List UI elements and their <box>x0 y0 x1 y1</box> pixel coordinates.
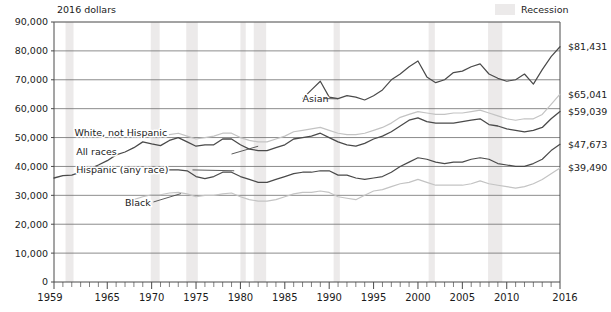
x-tick-label: 1995 <box>361 292 386 303</box>
series-label-black: Black <box>125 197 151 208</box>
end-value-label-asian: $81,431 <box>568 41 607 52</box>
income-by-race-line-chart: 010,00020,00030,00040,00050,00060,00070,… <box>0 0 611 312</box>
recession-band <box>254 22 266 282</box>
end-value-label-hispanic-any-race: $47,673 <box>568 139 607 150</box>
y-tick-label: 40,000 <box>15 161 48 172</box>
recession-legend-label: Recession <box>521 4 568 15</box>
y-tick-label: 20,000 <box>15 219 48 230</box>
recession-band <box>186 22 198 282</box>
y-tick-label: 50,000 <box>15 132 48 143</box>
y-tick-label: 10,000 <box>15 248 48 259</box>
recession-band <box>151 22 160 282</box>
x-tick-label: 1959 <box>37 292 62 303</box>
series-label-hispanic-any-race: Hispanic (any race) <box>76 164 168 175</box>
x-tick-label: 1990 <box>316 292 341 303</box>
x-tick-label: 1965 <box>95 292 120 303</box>
y-tick-label: 30,000 <box>15 190 48 201</box>
recession-band <box>429 22 435 282</box>
x-tick-label: 2016 <box>552 292 577 303</box>
x-tick-label: 1985 <box>272 292 297 303</box>
x-tick-label: 2000 <box>405 292 430 303</box>
recession-band <box>66 22 74 282</box>
recession-band <box>334 22 340 282</box>
recession-band <box>488 22 502 282</box>
chart-canvas: 010,00020,00030,00040,00050,00060,00070,… <box>0 0 611 312</box>
x-tick-label: 1980 <box>228 292 253 303</box>
y-tick-label: 0 <box>42 276 48 287</box>
y-tick-label: 60,000 <box>15 103 48 114</box>
y-tick-label: 90,000 <box>15 16 48 27</box>
x-tick-label: 2005 <box>450 292 475 303</box>
end-value-label-black: $39,490 <box>568 162 607 173</box>
units-note: 2016 dollars <box>57 4 116 15</box>
x-tick-label: 2010 <box>494 292 519 303</box>
x-tick-label: 1975 <box>183 292 208 303</box>
series-label-white-not-hispanic: White, not Hispanic <box>74 127 167 138</box>
y-tick-label: 80,000 <box>15 45 48 56</box>
y-tick-label: 70,000 <box>15 74 48 85</box>
x-tick-label: 1970 <box>139 292 164 303</box>
end-value-label-all-races: $59,039 <box>568 106 607 117</box>
series-label-all-races: All races <box>76 146 117 157</box>
recession-legend-swatch <box>495 4 515 15</box>
end-value-label-white-not-hispanic: $65,041 <box>568 89 607 100</box>
recession-band <box>240 22 245 282</box>
label-leader-line <box>192 170 234 171</box>
